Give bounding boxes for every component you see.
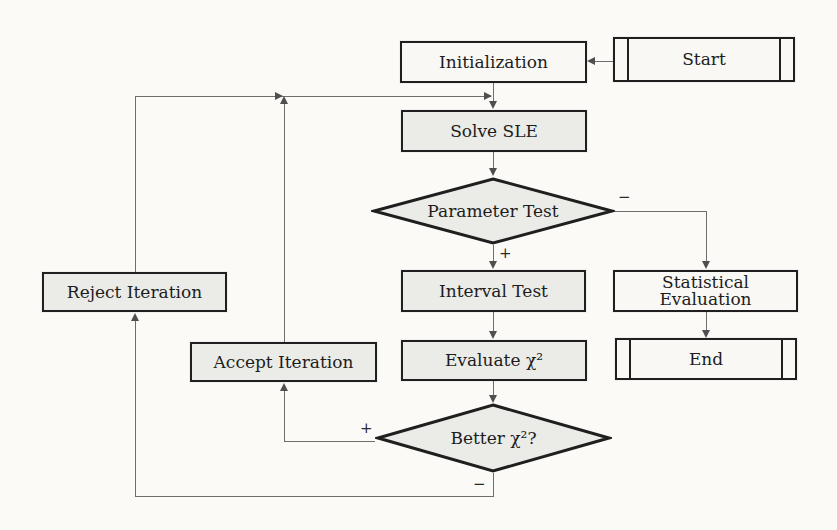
node-better-chi2: Better χ²? [375, 403, 612, 473]
edge-better-to-reject-hline [135, 496, 494, 497]
edge-better-to-accept-hline [284, 441, 375, 442]
node-reject-iteration-label: Reject Iteration [67, 284, 202, 301]
edge-loop-end-arrowhead [484, 92, 492, 100]
node-interval-test: Interval Test [401, 270, 586, 312]
edge-solve-to-parameter-arrowhead [489, 168, 497, 176]
edge-parameter-to-interval-arrowhead [489, 261, 497, 269]
node-better-chi2-label: Better χ²? [375, 403, 612, 473]
end-terminator-bar-left [629, 339, 631, 379]
edge-parameter-to-stat-arrowhead [702, 261, 710, 269]
node-initialization: Initialization [400, 41, 587, 83]
node-solve-sle: Solve SLE [401, 110, 587, 152]
edge-better-plus-label: + [360, 421, 373, 436]
edge-parameter-minus-label: − [618, 190, 631, 205]
node-solve-sle-label: Solve SLE [450, 123, 538, 140]
edge-better-to-reject-vline2 [135, 320, 136, 496]
node-initialization-label: Initialization [439, 54, 548, 71]
edge-accept-loop-arrowhead [280, 96, 288, 104]
edge-parameter-to-stat-hline [615, 211, 706, 212]
edge-initialization-to-solve-line [493, 83, 494, 103]
edge-start-to-initialization-arrowhead [587, 57, 595, 65]
node-evaluate-chi2-label: Evaluate χ² [445, 352, 543, 369]
node-end-label: End [689, 351, 723, 368]
node-evaluate-chi2: Evaluate χ² [401, 340, 587, 381]
edge-evaluate-to-better-arrowhead [489, 395, 497, 403]
node-accept-iteration-label: Accept Iteration [214, 354, 354, 371]
start-terminator-bar-right [779, 38, 781, 81]
edge-stat-to-end-line [706, 312, 707, 331]
node-statistical-evaluation: Statistical Evaluation [613, 270, 798, 312]
node-accept-iteration: Accept Iteration [190, 342, 377, 382]
edge-better-to-reject-arrowhead [131, 313, 139, 321]
edge-accept-loop-up-line [284, 103, 285, 342]
end-terminator-bar-right [781, 339, 783, 379]
edge-reject-loop-up-line [135, 96, 136, 272]
edge-better-to-reject-vline1 [493, 473, 494, 496]
node-start-label: Start [682, 51, 726, 68]
edge-loop-horizontal-line [135, 96, 491, 97]
edge-better-to-accept-arrowhead [280, 383, 288, 391]
node-reject-iteration: Reject Iteration [42, 272, 227, 312]
node-start: Start [613, 37, 795, 82]
node-parameter-test: Parameter Test [371, 177, 615, 245]
edge-parameter-plus-label: + [499, 246, 512, 261]
edge-parameter-to-stat-vline [706, 211, 707, 262]
edge-better-minus-label: − [473, 477, 486, 492]
edge-evaluate-to-better-line [493, 381, 494, 396]
edge-stat-to-end-arrowhead [702, 330, 710, 338]
node-parameter-test-label: Parameter Test [371, 177, 615, 245]
edge-solve-to-parameter-line [493, 152, 494, 169]
edge-initialization-to-solve-arrowhead [489, 101, 497, 109]
node-statistical-evaluation-label: Statistical Evaluation [615, 274, 796, 308]
node-interval-test-label: Interval Test [439, 283, 548, 300]
edge-interval-to-evaluate-arrowhead [489, 331, 497, 339]
flowchart-figure: + − + − Start Initialization Solve SLE P… [0, 0, 837, 530]
edge-better-to-accept-vline [284, 390, 285, 441]
edge-parameter-to-interval-line [493, 245, 494, 261]
node-end: End [615, 338, 797, 380]
start-terminator-bar-left [627, 38, 629, 81]
edge-interval-to-evaluate-line [493, 312, 494, 332]
